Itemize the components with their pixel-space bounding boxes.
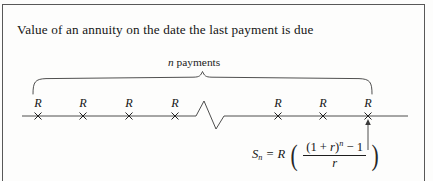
formula-factor: R [278,147,286,162]
formula-close-paren: ) [371,144,378,166]
formula-numerator: (1 + r)n − 1 [303,140,366,155]
annuity-figure: Value of an annuity on the date the last… [0,0,433,181]
formula-open-paren: ( [291,144,298,166]
formula-denominator: r [332,156,337,170]
formula-lhs: Sn [252,147,262,162]
annuity-formula: Sn = R ( (1 + r)n − 1 r ) [252,140,380,170]
arrow-head [365,119,371,125]
formula-equals: = [266,147,273,162]
formula-fraction: (1 + r)n − 1 r [303,140,366,170]
